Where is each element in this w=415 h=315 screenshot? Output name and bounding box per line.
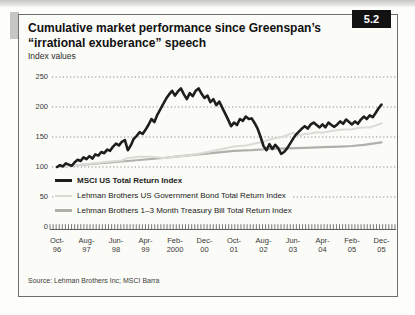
legend-line-marker-icon	[55, 209, 72, 211]
x-axis-label: Dec-00	[189, 236, 221, 254]
y-axis-label: 200	[26, 102, 48, 111]
figure-number-badge: 5.2	[352, 10, 391, 28]
legend-item: MSCI US Total Return Index	[55, 175, 188, 186]
x-axis-label: Apr-04	[307, 236, 339, 254]
x-axis-baseline	[50, 224, 396, 229]
chart-title: Cumulative market performance since Gree…	[28, 21, 350, 50]
legend-line-marker-icon	[55, 179, 72, 182]
legend-label: MSCI US Total Return Index	[77, 176, 182, 185]
legend-item: Lehman Brothers 1–3 Month Treasury Bill …	[55, 205, 298, 216]
chart-legend: MSCI US Total Return IndexLehman Brother…	[55, 175, 298, 220]
series-line-lehman-brothers-us-government-bond-total	[57, 123, 382, 167]
y-axis-label: 50	[26, 192, 48, 201]
x-axis-label: Aug-97	[71, 236, 103, 254]
series-line-msci-us-total-return-index	[57, 88, 382, 167]
legend-label: Lehman Brothers US Government Bond Total…	[77, 191, 286, 200]
x-axis-label: Oct-01	[218, 236, 250, 254]
y-axis-label: 250	[26, 72, 48, 81]
x-axis-label: Dec-05	[366, 236, 398, 254]
legend-line-marker-icon	[55, 195, 72, 197]
x-axis-label: Feb-05	[336, 236, 368, 254]
y-axis-label: 0	[26, 222, 48, 231]
x-axis-label: Feb-2000	[159, 236, 191, 254]
legend-item: Lehman Brothers US Government Bond Total…	[55, 190, 292, 201]
y-axis-label: 150	[26, 132, 48, 141]
series-line-lehman-brothers-1-3-month-treasury-bill-	[57, 142, 382, 167]
chart-subtitle: Index values	[28, 51, 76, 61]
x-axis-label: Jun-03	[277, 236, 309, 254]
x-axis-label: Jun-98	[100, 236, 132, 254]
source-note: Source: Lehman Brothers Inc; MSCI Barra	[28, 277, 160, 284]
y-axis-label: 100	[26, 162, 48, 171]
x-axis-label: Apr-99	[130, 236, 162, 254]
x-axis-label: Oct-96	[41, 236, 73, 254]
x-axis-label: Aug-02	[248, 236, 280, 254]
legend-label: Lehman Brothers 1–3 Month Treasury Bill …	[77, 206, 292, 215]
